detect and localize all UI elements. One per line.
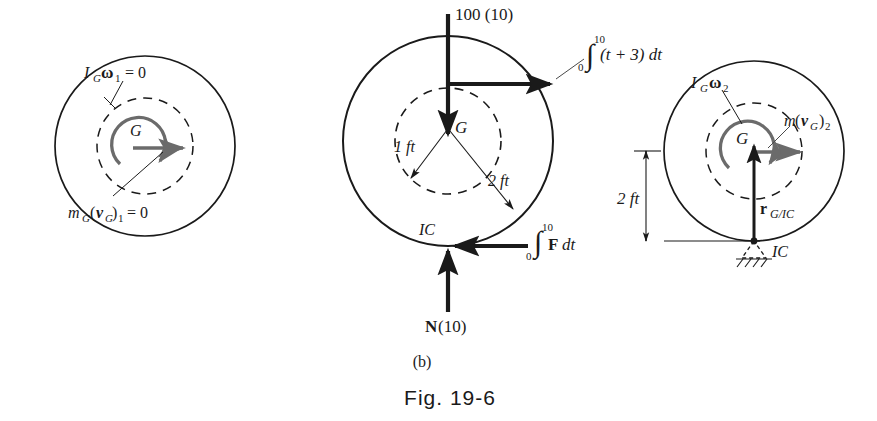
svg-text:0: 0 <box>526 250 532 262</box>
figure-19-6: G I G ω 1 = 0 m G ( v G ) 1 = 0 <box>0 0 877 421</box>
svg-text:F: F <box>548 235 558 254</box>
svg-text:I: I <box>83 64 90 81</box>
svg-text:m: m <box>68 204 80 221</box>
svg-text:G: G <box>93 72 101 84</box>
center-of-mass-label-right: G <box>736 129 748 148</box>
inner-radius-label: 1 ft <box>394 138 415 156</box>
figure-caption: Fig. 19-6 <box>404 386 496 409</box>
svg-text:(10): (10) <box>438 317 466 336</box>
contact-point-label-right: IC <box>771 243 788 260</box>
svg-text:): ) <box>819 112 824 130</box>
svg-text:G: G <box>700 82 708 94</box>
svg-text:2: 2 <box>723 82 729 94</box>
svg-text:(: ( <box>90 204 95 222</box>
svg-text:N: N <box>425 317 438 336</box>
weight-impulse-label: 100 (10) <box>455 5 513 24</box>
svg-text:(: ( <box>795 112 800 130</box>
svg-text:1: 1 <box>115 72 121 84</box>
svg-text:G: G <box>810 120 818 132</box>
svg-text:2: 2 <box>825 120 831 132</box>
svg-text:G: G <box>82 212 90 224</box>
svg-text:): ) <box>112 204 117 222</box>
svg-text:ω: ω <box>709 73 721 92</box>
svg-text:1: 1 <box>118 212 124 224</box>
svg-text:I: I <box>690 74 697 91</box>
outer-radius-label: 2 ft <box>488 172 509 190</box>
normal-impulse-label: N (10) <box>425 317 466 336</box>
svg-text:v: v <box>96 204 104 221</box>
svg-text:v: v <box>801 112 809 129</box>
dimension-2ft-label: 2 ft <box>617 189 640 208</box>
svg-text:10: 10 <box>594 33 606 45</box>
sub-caption: (b) <box>413 353 432 371</box>
svg-text:m: m <box>784 112 796 129</box>
svg-text:0: 0 <box>578 61 584 73</box>
svg-text:= 0: = 0 <box>125 64 146 81</box>
center-of-mass-label-middle: G <box>455 118 467 137</box>
figure-canvas: G I G ω 1 = 0 m G ( v G ) 1 = 0 <box>0 0 877 421</box>
svg-text:dt: dt <box>562 235 577 254</box>
contact-point-label-middle: IC <box>418 221 435 238</box>
svg-text:ω: ω <box>101 63 113 82</box>
center-of-mass-label-left: G <box>130 122 142 139</box>
svg-text:10: 10 <box>542 221 554 233</box>
svg-text:G/IC: G/IC <box>770 207 795 221</box>
svg-text:= 0: = 0 <box>127 204 148 221</box>
svg-text:(t + 3) dt: (t + 3) dt <box>600 45 663 64</box>
svg-text:r: r <box>760 200 767 217</box>
